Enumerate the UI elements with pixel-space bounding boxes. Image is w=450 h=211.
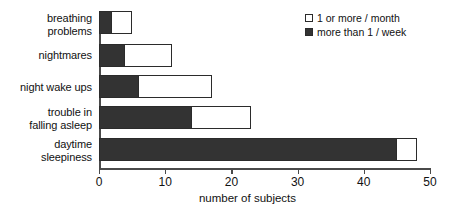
bar-row — [99, 11, 132, 34]
bar-segment-week — [99, 44, 125, 67]
category-label-trouble-falling-asleep: trouble in falling asleep — [29, 106, 92, 131]
bar-segment-week — [99, 138, 397, 161]
legend-swatch-open-icon — [305, 14, 313, 22]
bar-row — [99, 75, 212, 98]
legend-label-week: more than 1 / week — [317, 25, 406, 39]
x-axis-tick-label: 50 — [423, 175, 436, 189]
x-axis-tick-label: 40 — [357, 175, 370, 189]
x-axis-tick — [99, 169, 100, 174]
x-axis-tick-label: 0 — [96, 175, 103, 189]
category-label-breathing-problems: breathing problems — [47, 12, 92, 37]
x-axis-title: number of subjects — [0, 192, 450, 204]
bar-segment-week — [99, 11, 112, 34]
x-axis-tick — [430, 169, 431, 174]
x-axis-tick — [298, 169, 299, 174]
x-axis-tick — [364, 169, 365, 174]
legend-label-month: 1 or more / month — [317, 11, 400, 25]
bar-row — [99, 138, 417, 161]
category-label-daytime-sleepiness: daytime sleepiness — [41, 138, 92, 163]
legend-entry-week: more than 1 / week — [305, 25, 406, 39]
bar-segment-week — [99, 106, 192, 129]
x-axis-tick-label: 30 — [291, 175, 304, 189]
x-axis-line — [99, 168, 431, 170]
category-label-night-wake-ups: night wake ups — [20, 81, 92, 94]
bar-row — [99, 44, 172, 67]
bar-segment-week — [99, 75, 139, 98]
legend-entry-month: 1 or more / month — [305, 11, 406, 25]
x-axis-tick-label: 20 — [225, 175, 238, 189]
x-axis-tick — [165, 169, 166, 174]
category-label-nightmares: nightmares — [39, 49, 92, 62]
horizontal-stacked-bar-chart: breathing problems nightmares night wake… — [0, 0, 450, 211]
bar-row — [99, 106, 251, 129]
x-axis-tick — [231, 169, 232, 174]
legend: 1 or more / month more than 1 / week — [305, 11, 406, 39]
x-axis-tick-label: 10 — [159, 175, 172, 189]
legend-swatch-filled-icon — [305, 28, 313, 36]
